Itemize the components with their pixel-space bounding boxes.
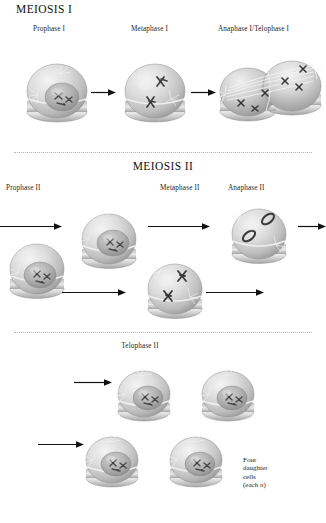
four-daughter-cells-caption: Four daughter cells (each n) [243, 456, 268, 490]
label-prophase-2: Prophase II [6, 184, 41, 192]
caption-each-prefix: (each [243, 481, 260, 489]
arrow-into-prophase2-upper [0, 222, 62, 231]
cell-prophase-2-lower [4, 235, 70, 303]
cell-metaphase-1 [119, 55, 191, 127]
cell-prophase-1 [21, 55, 93, 127]
caption-line-2: daughter [243, 464, 268, 472]
label-metaphase-2: Metaphase II [160, 184, 200, 192]
meiosis-diagram: MEIOSIS I Prophase I Metaphase I Anaphas… [0, 0, 326, 523]
cell-prophase-2-upper [76, 205, 142, 273]
label-anaphase-telophase-1: Anaphase I/Telophase I [218, 25, 289, 33]
caption-line-3: cells [243, 473, 268, 481]
cell-anaphase-2 [226, 200, 292, 268]
arrow-prophase1-to-metaphase1 [91, 88, 116, 97]
meiosis-2-heading: MEIOSIS II [0, 160, 326, 172]
daughter-cell-4 [164, 428, 228, 492]
daughter-cell-1 [112, 362, 176, 426]
cell-anaphase-telophase-1 [216, 48, 324, 134]
daughter-cell-2 [196, 362, 260, 426]
arrow-into-telophase2-lower [38, 440, 84, 449]
label-anaphase-2: Anaphase II [228, 184, 265, 192]
arrow-anaphase2-upper-out [298, 222, 326, 231]
caption-each-suffix: ) [263, 481, 265, 489]
divider-telophase-2 [14, 332, 312, 333]
label-prophase-1: Prophase I [33, 25, 65, 33]
arrow-into-prophase2-lower [62, 288, 126, 297]
arrow-metaphase2-lower-out [206, 288, 264, 297]
cell-metaphase-2 [142, 255, 208, 323]
arrow-into-telophase2-upper [74, 378, 112, 387]
meiosis-1-heading: MEIOSIS I [16, 3, 72, 15]
caption-line-4: (each n) [243, 481, 268, 489]
label-telophase-2: Telophase II [0, 342, 280, 350]
divider-meiosis-1-2 [14, 152, 312, 153]
arrow-prophase2-upper-to-anaphase2 [148, 222, 210, 231]
caption-line-1: Four [243, 456, 268, 464]
arrow-metaphase1-to-anaphase1 [191, 88, 216, 97]
daughter-cell-3 [80, 428, 144, 492]
label-metaphase-1: Metaphase I [131, 25, 168, 33]
